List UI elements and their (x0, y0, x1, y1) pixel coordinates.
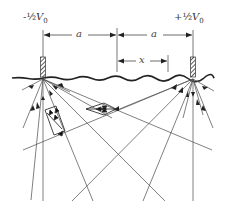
right-potential-label: +½V0 (174, 12, 204, 25)
left-potential-label: -½V0 (23, 12, 48, 25)
electrode-diagram: -½V0 +½V0 a a x (0, 0, 226, 210)
right-electrode-rod (191, 57, 196, 77)
dimension-x-label: x (139, 55, 145, 65)
flow-lines (22, 79, 214, 201)
flow-arrows-right (113, 84, 208, 111)
left-fraction: ½ (26, 11, 36, 22)
right-fraction: ½ (182, 11, 192, 22)
diagram-canvas (0, 0, 226, 210)
vector-parallelogram-left (45, 106, 65, 136)
left-electrode-rod (41, 57, 46, 77)
right-subscript: 0 (199, 17, 203, 25)
dimension-a-left-label: a (76, 29, 82, 39)
dimension-a-right-label: a (151, 29, 157, 39)
left-subscript: 0 (43, 17, 47, 25)
